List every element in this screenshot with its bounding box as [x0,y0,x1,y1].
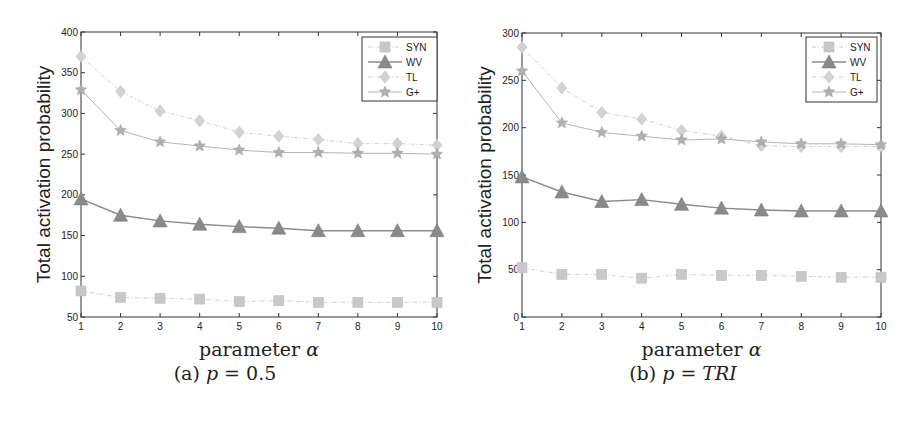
x-tick-label: 4 [197,321,203,332]
caption-b-eq: = [674,362,702,384]
x-tick-label: 2 [118,321,124,332]
y-axis-label: Total activation probability [474,66,495,284]
figure: 5010015020025030035040012345678910Total … [0,0,917,421]
svg-text:SYN: SYN [406,42,427,53]
y-tick-label: 250 [61,149,78,160]
y-axis-label: Total activation probability [33,65,54,283]
svg-text:WV: WV [850,57,866,68]
x-tick-label: 9 [838,321,844,332]
y-tick-label: 200 [61,189,78,200]
x-axis-label: parameter α [199,338,319,360]
svg-text:TL: TL [406,72,418,83]
svg-text:G+: G+ [406,87,420,98]
y-tick-label: 100 [502,217,519,228]
x-tick-label: 1 [519,321,525,332]
y-tick-label: 200 [502,122,519,133]
caption-b-value: TRI [702,362,737,384]
y-tick-label: 400 [61,27,78,38]
svg-text:TL: TL [850,72,862,83]
caption-a-var: p [206,362,218,384]
x-tick-label: 10 [875,321,887,332]
legend: SYNWVTLG+ [362,37,437,101]
caption-a-prefix: (a) [174,362,206,384]
x-tick-label: 2 [559,321,565,332]
y-tick-label: 350 [61,67,78,78]
chart-panel-a: 5010015020025030035040012345678910Total … [33,27,444,361]
x-tick-label: 6 [276,321,282,332]
caption-b: (b) p = TRI [629,362,737,384]
y-tick-label: 300 [502,28,519,39]
x-tick-label: 4 [639,321,645,332]
caption-a: (a) p = 0.5 [174,362,277,384]
x-tick-label: 5 [236,321,242,332]
y-tick-label: 50 [67,312,79,323]
x-tick-label: 7 [759,321,765,332]
y-tick-label: 250 [502,75,519,86]
caption-a-value: = 0.5 [218,362,276,384]
x-tick-label: 6 [719,321,725,332]
x-tick-label: 1 [78,321,84,332]
y-tick-label: 150 [61,230,78,241]
x-tick-label: 3 [157,321,163,332]
svg-text:G+: G+ [850,87,864,98]
caption-b-prefix: (b) [629,362,662,384]
svg-text:SYN: SYN [850,42,871,53]
x-tick-label: 10 [431,321,443,332]
x-tick-label: 8 [798,321,804,332]
caption-b-var: p [662,362,674,384]
svg-text:WV: WV [406,57,422,68]
x-tick-label: 9 [395,321,401,332]
y-tick-label: 300 [61,108,78,119]
x-tick-label: 5 [679,321,685,332]
x-tick-label: 3 [599,321,605,332]
chart-panel-b: 05010015020025030012345678910Total activ… [474,28,888,361]
x-axis-label: parameter α [641,338,761,360]
legend: SYNWVTLG+ [806,37,877,102]
y-tick-label: 100 [61,271,78,282]
x-tick-label: 8 [355,321,361,332]
x-tick-label: 7 [316,321,322,332]
